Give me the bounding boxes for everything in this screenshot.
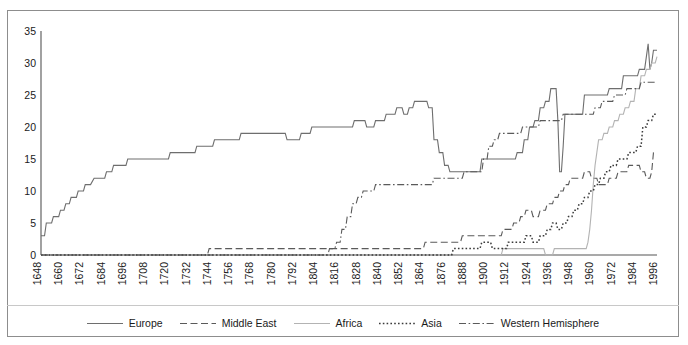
x-tick-label: 1684 [95,262,107,286]
x-tick-label: 1708 [137,262,149,286]
x-tick-label: 1780 [265,262,277,286]
series-line-western-hemisphere [41,82,657,255]
legend-item-label: Europe [129,318,163,329]
x-tick-label: 1972 [605,262,617,286]
series-line-africa [41,57,657,255]
x-tick-label: 1732 [180,262,192,286]
y-tick-label: 5 [30,217,36,229]
x-tick-label: 1648 [31,262,43,286]
series-line-europe [41,44,657,236]
y-tick-label: 25 [24,89,36,101]
x-tick-label: 1696 [116,262,128,286]
y-tick-label: 10 [24,185,36,197]
x-tick-label: 1924 [520,262,532,286]
x-tick-label: 1876 [435,262,447,286]
x-tick-label: 1864 [413,262,425,286]
legend-item-label: Africa [336,318,363,329]
series-line-asia [41,114,657,255]
legend-separator [7,305,679,306]
legend-swatch-icon [459,319,495,328]
x-tick-label: 1900 [477,262,489,286]
y-tick-label: 15 [24,153,36,165]
x-tick-label: 1948 [562,262,574,286]
x-tick-label: 1888 [456,262,468,286]
x-tick-label: 1852 [392,262,404,286]
x-tick-label: 1960 [583,262,595,286]
series-line-middle-east [41,153,657,255]
x-tick-label: 1996 [647,262,659,286]
x-tick-label: 1912 [498,262,510,286]
x-tick-label: 1756 [222,262,234,286]
legend-item-europe[interactable]: Europe [87,318,163,329]
x-tick-label: 1768 [243,262,255,286]
legend-item-western-hemisphere[interactable]: Western Hemisphere [459,318,599,329]
x-tick-label: 1660 [52,262,64,286]
x-tick-label: 1744 [201,262,213,286]
legend-item-label: Asia [421,318,441,329]
x-tick-label: 1840 [371,262,383,286]
chart-legend: EuropeMiddle EastAfricaAsiaWestern Hemis… [7,312,679,334]
y-tick-label: 30 [24,57,36,69]
x-tick-label: 1828 [350,262,362,286]
x-tick-label: 1804 [307,262,319,286]
x-tick-label: 1792 [286,262,298,286]
chart-plot-area: 3530252015105016481660167216841696170817… [0,0,688,345]
legend-item-label: Western Hemisphere [501,318,599,329]
legend-item-africa[interactable]: Africa [294,318,363,329]
x-tick-label: 1672 [73,262,85,286]
x-tick-label: 1720 [158,262,170,286]
legend-swatch-icon [294,319,330,328]
legend-swatch-icon [379,319,415,328]
y-tick-label: 0 [30,249,36,261]
x-tick-label: 1984 [626,262,638,286]
legend-item-middle-east[interactable]: Middle East [180,318,277,329]
chart-svg: 3530252015105016481660167216841696170817… [0,0,688,345]
y-tick-label: 20 [24,121,36,133]
x-tick-label: 1816 [328,262,340,286]
legend-swatch-icon [180,319,216,328]
y-tick-label: 35 [24,25,36,37]
x-tick-label: 1936 [541,262,553,286]
legend-item-label: Middle East [222,318,277,329]
legend-swatch-icon [87,319,123,328]
legend-item-asia[interactable]: Asia [379,318,441,329]
